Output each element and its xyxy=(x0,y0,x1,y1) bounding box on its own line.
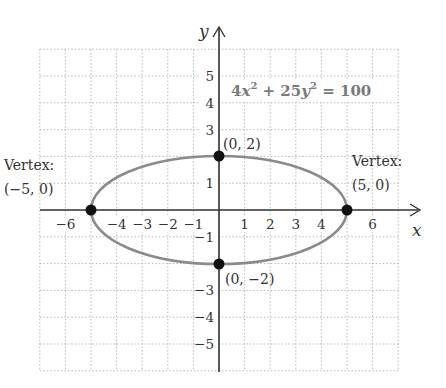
vertex-right-point xyxy=(342,205,353,216)
vertex-right-label-2: (5, 0) xyxy=(352,177,390,193)
y-tick-label: −3 xyxy=(194,282,214,298)
x-tick-label: 4 xyxy=(317,216,326,232)
y-tick-label: −1 xyxy=(194,229,214,245)
y-tick-label: 1 xyxy=(205,175,214,191)
y-tick-label: −4 xyxy=(194,309,214,325)
x-tick-label: 3 xyxy=(292,216,301,232)
x-tick-label: −2 xyxy=(158,216,178,232)
x-tick-label: 2 xyxy=(266,216,275,232)
y-tick-label: −5 xyxy=(194,336,214,352)
covertex-bottom-label: (0, −2) xyxy=(225,271,274,287)
covertex-bottom-point xyxy=(214,259,225,270)
vertex-left-point xyxy=(86,205,97,216)
ellipse-graph: x y −6−4−3−2−1123465431−1−3−4−5 4x2 + 25… xyxy=(0,0,446,388)
y-tick-label: 4 xyxy=(205,95,214,111)
y-axis-label: y xyxy=(198,21,209,41)
covertex-top-point xyxy=(214,151,225,162)
axes: x y xyxy=(40,21,422,372)
vertex-right-label-1: Vertex: xyxy=(351,153,402,169)
x-tick-label: −3 xyxy=(132,216,152,232)
x-tick-label: −4 xyxy=(107,216,127,232)
vertex-left-label-2: (−5, 0) xyxy=(4,181,53,197)
x-axis-label: x xyxy=(412,220,422,240)
covertex-top-label: (0, 2) xyxy=(223,136,261,152)
y-tick-label: 3 xyxy=(205,122,214,138)
y-tick-label: 5 xyxy=(205,68,214,84)
vertex-left-label-1: Vertex: xyxy=(3,157,54,173)
x-tick-label: −6 xyxy=(55,216,75,232)
x-tick-label: 1 xyxy=(240,216,249,232)
x-tick-label: 6 xyxy=(368,216,377,232)
equation-label: 4x2 + 25y2 = 100 xyxy=(228,80,396,102)
